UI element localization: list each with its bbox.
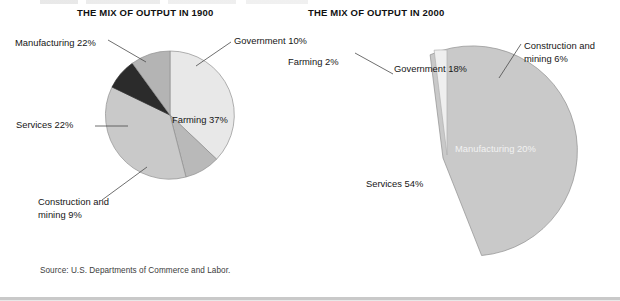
label-2000-construction-line1: Construction and [524, 40, 595, 51]
label-2000-government: Government 18% [394, 63, 467, 76]
label-2000-construction-line2: mining 6% [524, 53, 568, 64]
label-2000-services: Services 54% [366, 178, 423, 191]
figure-container: THE MIX OF OUTPUT IN 1900 THE MIX OF OUT… [0, 0, 620, 301]
source-note: Source: U.S. Departments of Commerce and… [40, 266, 230, 275]
leader-line-2000-farming [355, 53, 393, 74]
label-2000-farming: Farming 2% [288, 56, 339, 69]
label-2000-manufacturing: Manufacturing 20% [455, 143, 536, 156]
label-2000-construction: Construction and mining 6% [524, 40, 595, 65]
